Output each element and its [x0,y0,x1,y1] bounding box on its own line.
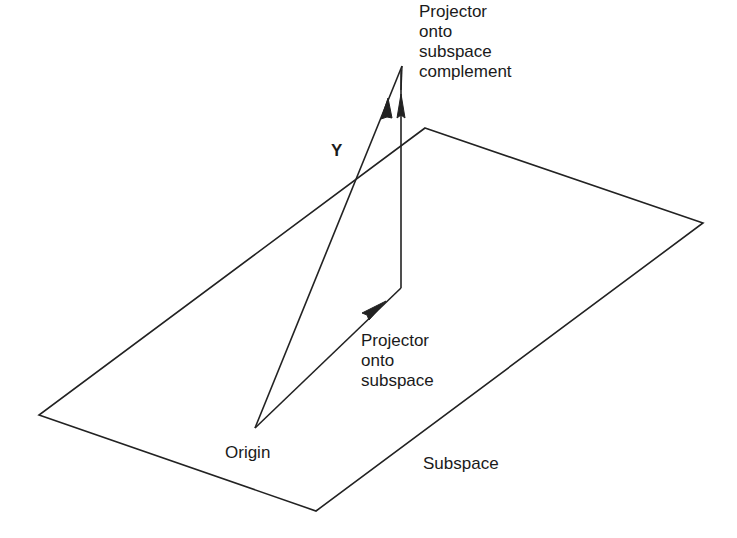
projection-diagram [0,0,737,538]
subspace-plane [39,128,703,511]
y-vector-label: Y [331,141,342,161]
subspace-projector-label: Projector onto subspace [361,331,434,391]
complement-projector-label: Projector onto subspace complement [419,2,512,82]
complement-projection-arrowhead [397,94,405,118]
subspace-label: Subspace [423,454,499,474]
tip-connector [401,66,402,90]
subspace-projection-arrowhead [362,301,386,320]
origin-label: Origin [225,443,270,463]
y-vector-arrowhead [381,98,392,119]
